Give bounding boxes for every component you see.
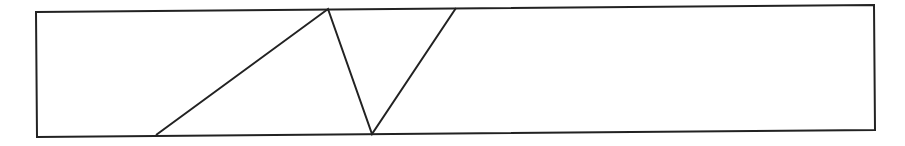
diagram-canvas — [0, 0, 905, 146]
background — [0, 0, 905, 146]
